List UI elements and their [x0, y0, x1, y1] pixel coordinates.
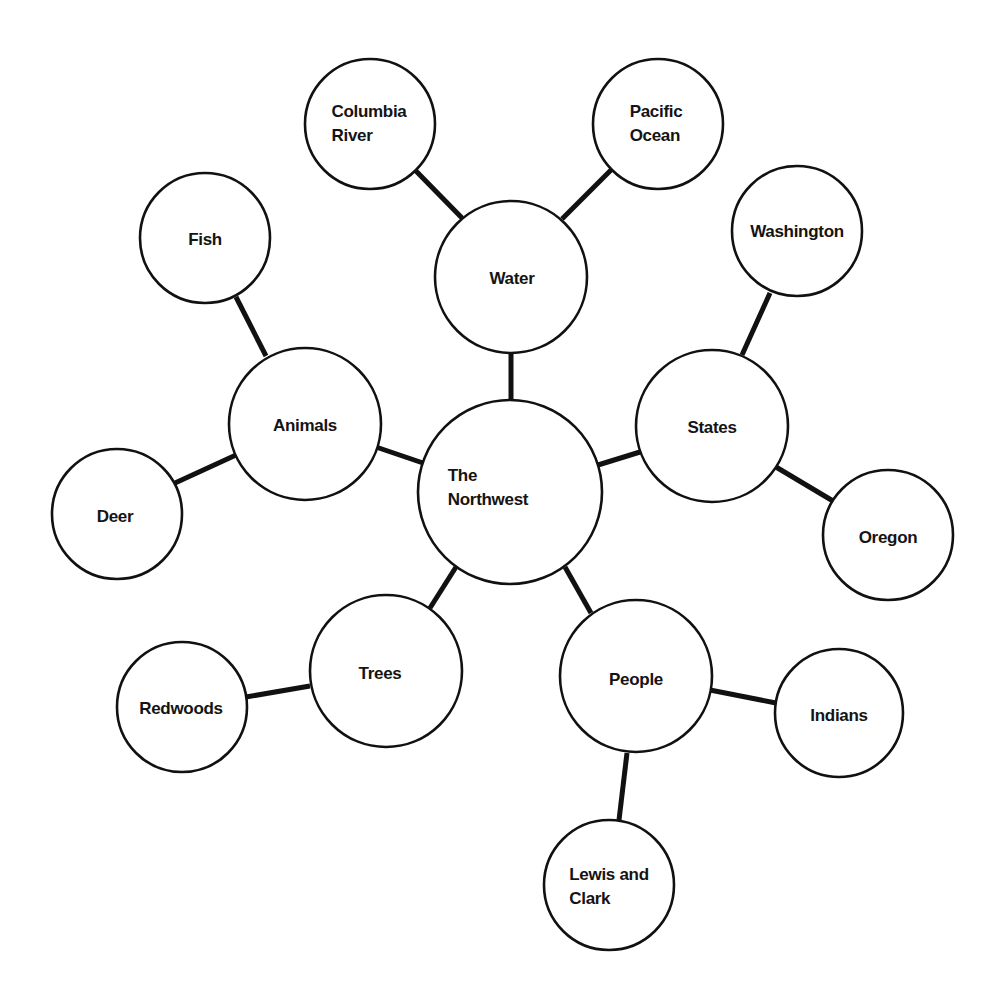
node-label-deer: Deer — [97, 505, 134, 529]
connector-line-animals-fish — [236, 297, 266, 356]
connector-line-northwest-people — [565, 567, 591, 613]
node-label-people: People — [609, 668, 663, 692]
node-label-oregon: Oregon — [859, 526, 918, 550]
connector-line-water-columbia-river — [416, 171, 462, 218]
connector-line-animals-deer — [175, 455, 236, 483]
node-label-water: Water — [489, 267, 534, 291]
node-label-lewis-and-clark: Lewis and Clark — [569, 863, 649, 911]
node-label-trees: Trees — [359, 662, 402, 686]
node-label-animals: Animals — [273, 414, 337, 438]
node-label-states: States — [687, 416, 736, 440]
connector-line-states-oregon — [776, 467, 833, 501]
connector-line-trees-redwoods — [246, 686, 310, 697]
connector-line-northwest-animals — [376, 447, 423, 463]
connector-line-northwest-states — [598, 452, 640, 465]
connector-line-northwest-trees — [430, 567, 456, 608]
connector-line-people-lewis-and-clark — [619, 753, 627, 820]
node-label-pacific-ocean: Pacific Ocean — [630, 100, 683, 148]
node-label-redwoods: Redwoods — [139, 697, 223, 721]
connector-line-people-indians — [710, 690, 776, 703]
node-label-northwest: The Northwest — [448, 464, 528, 512]
connector-line-water-pacific-ocean — [562, 170, 611, 219]
connector-line-states-washington — [742, 293, 770, 355]
node-label-indians: Indians — [810, 704, 867, 728]
node-label-washington: Washington — [750, 220, 844, 244]
node-label-columbia-river: Columbia River — [331, 100, 406, 148]
node-label-fish: Fish — [188, 228, 222, 252]
